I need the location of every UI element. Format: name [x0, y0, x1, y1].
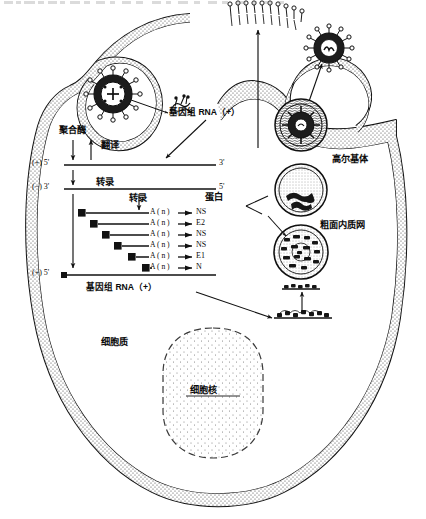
- protein-name: E1: [196, 252, 205, 260]
- mrna-rows: [78, 209, 192, 272]
- arrow-er-to-golgi: [268, 216, 286, 236]
- plus-strand-right-end: 3': [219, 159, 224, 167]
- mrna-tail: A ( n ): [150, 252, 170, 260]
- protein-name: NS: [196, 230, 206, 238]
- protein-name: E2: [196, 219, 205, 227]
- figure-canvas: 聚合酶 翻译 转录 转录 基因组 RNA（+） 基因组 RNA（+） 蛋白 高尔…: [0, 0, 426, 519]
- minus-strand-left-end: (−) 3': [32, 183, 49, 191]
- mrna-tail: A ( n ): [150, 263, 170, 271]
- label-translation: 翻译: [101, 141, 119, 150]
- mrna-tail: A ( n ): [150, 219, 170, 227]
- arrow-genome-to-ribosomes: [196, 292, 272, 318]
- plus-strand-left-end: (+) 5': [32, 159, 49, 167]
- connector-protein-to-organelle: [246, 196, 268, 206]
- label-rough-er: 粗面内质网: [320, 221, 365, 230]
- label-genome-rna-bottom: 基因组 RNA（+）: [86, 283, 157, 292]
- mrna-row: [78, 209, 192, 217]
- mrna-tail: A ( n ): [150, 208, 170, 216]
- mrna-tail: A ( n ): [150, 241, 170, 249]
- protein-name: N: [196, 263, 202, 271]
- arrow-genome-label-to-strand: [166, 120, 206, 158]
- cropped-text-strip: [0, 0, 426, 7]
- label-genome-rna-top: 基因组 RNA（+）: [169, 108, 240, 117]
- label-transcription-2: 转录: [129, 194, 147, 203]
- mrna-row: [90, 220, 192, 228]
- label-polymerase: 聚合酶: [59, 126, 86, 135]
- connector-protein-to-organelle-2: [246, 206, 262, 214]
- protein-name: NS: [196, 241, 206, 249]
- label-transcription-1: 转录: [96, 178, 114, 187]
- mrna-row: [102, 231, 192, 239]
- organelle-nucleocapsid-vesicle: [275, 99, 327, 151]
- label-nucleus: 细胞核: [190, 386, 217, 395]
- protein-name: NS: [196, 208, 206, 216]
- organelle-golgi-vesicle: [275, 164, 327, 216]
- label-cytoplasm: 细胞质: [101, 338, 128, 347]
- ribosome-row-lower: [274, 310, 332, 318]
- ribosome-row-upper: [282, 284, 320, 289]
- label-golgi: 高尔基体: [332, 155, 368, 164]
- virus-replication-diagram: [0, 0, 426, 519]
- minus-strand-right-end: 5': [219, 183, 224, 191]
- organelle-rough-er-vesicle: [274, 225, 328, 279]
- label-protein-header: 蛋白: [205, 193, 223, 202]
- genome-strand-left-end: (+) 5': [32, 269, 49, 277]
- mrna-tail: A ( n ): [150, 230, 170, 238]
